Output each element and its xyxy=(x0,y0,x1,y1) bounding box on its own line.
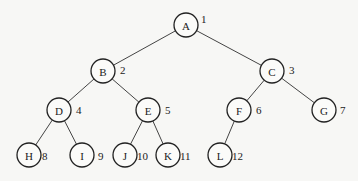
tree-node-B: B2 xyxy=(91,59,126,83)
node-index-label: 2 xyxy=(120,64,126,76)
tree-node-H: H8 xyxy=(17,143,48,167)
edge-F-L xyxy=(225,121,235,144)
node-index-label: 9 xyxy=(98,150,104,162)
edge-D-I xyxy=(64,121,76,145)
edge-D-H xyxy=(36,120,53,145)
tree-node-G: G7 xyxy=(312,98,346,122)
node-label: I xyxy=(80,150,84,162)
node-index-label: 11 xyxy=(180,150,191,162)
node-index-label: 5 xyxy=(165,104,171,116)
node-label: F xyxy=(236,105,242,117)
tree-node-K: K11 xyxy=(156,143,191,167)
edge-B-E xyxy=(112,79,139,102)
node-index-label: 10 xyxy=(137,150,149,162)
node-index-label: 8 xyxy=(42,150,48,162)
node-label: L xyxy=(217,150,224,162)
node-index-label: 4 xyxy=(76,104,82,116)
node-label: A xyxy=(182,20,190,32)
tree-edges xyxy=(36,31,315,145)
tree-node-F: F6 xyxy=(227,98,262,122)
edge-A-B xyxy=(113,31,175,65)
node-label: C xyxy=(268,66,275,78)
tree-node-E: E5 xyxy=(136,98,171,122)
node-index-label: 12 xyxy=(232,150,243,162)
node-label: H xyxy=(25,150,33,162)
edge-B-D xyxy=(68,79,94,102)
tree-node-C: C3 xyxy=(260,59,295,83)
node-label: K xyxy=(164,150,172,162)
node-index-label: 6 xyxy=(256,104,262,116)
edge-E-K xyxy=(153,121,163,144)
node-index-label: 3 xyxy=(289,64,295,76)
binary-tree-diagram: A1B2C3D4E5F6G7H8I9J10K11L12 xyxy=(0,0,358,181)
node-label: E xyxy=(145,105,152,117)
tree-node-J: J10 xyxy=(113,143,149,167)
edge-A-C xyxy=(197,31,262,66)
tree-node-I: I9 xyxy=(70,143,104,167)
tree-node-L: L12 xyxy=(208,143,243,167)
node-label: B xyxy=(99,66,106,78)
node-label: G xyxy=(320,105,328,117)
tree-node-D: D4 xyxy=(47,98,82,122)
node-label: D xyxy=(55,105,63,117)
node-index-label: 7 xyxy=(340,104,346,116)
edge-E-J xyxy=(130,121,142,145)
edge-C-G xyxy=(282,78,315,103)
node-index-label: 1 xyxy=(201,13,207,25)
node-label: J xyxy=(123,150,128,162)
edge-C-F xyxy=(247,80,264,101)
